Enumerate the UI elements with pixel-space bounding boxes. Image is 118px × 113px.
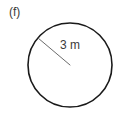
circle-diagram <box>0 0 118 113</box>
figure-container: (f) 3 m <box>0 0 118 113</box>
radius-measurement-label: 3 m <box>60 38 80 52</box>
